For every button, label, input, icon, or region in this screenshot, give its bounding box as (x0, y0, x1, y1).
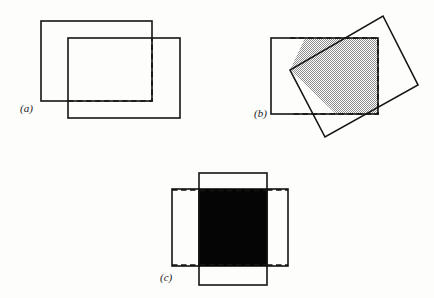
figure-root: (a) (b) ( (0, 0, 434, 298)
panel-c-intersection-fill (199, 189, 267, 266)
panel-c-label: (c) (160, 271, 173, 284)
panel-b-label: (b) (254, 107, 267, 120)
rectangle-intersection-figure: (a) (b) ( (0, 0, 434, 298)
panel-a-label: (a) (20, 102, 33, 115)
